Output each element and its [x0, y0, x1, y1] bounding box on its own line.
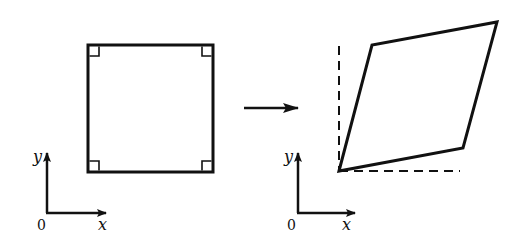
sheared-parallelogram: [339, 22, 497, 171]
right-axes: y 0 x: [283, 147, 355, 234]
right-angle-markers: [90, 47, 212, 171]
original-square: [88, 45, 213, 172]
x-axis-label: x: [342, 215, 351, 234]
y-axis-label: y: [283, 147, 294, 166]
left-axes: y 0 x: [32, 147, 107, 234]
x-axis-label: x: [98, 215, 107, 234]
shear-diagram: y 0 x y 0 x: [0, 0, 523, 244]
right-angle-marker-bottom-left: [90, 161, 100, 171]
y-axis-label: y: [32, 147, 43, 166]
right-angle-marker-top-left: [90, 47, 100, 57]
right-angle-marker-top-right: [202, 47, 212, 57]
origin-label: 0: [37, 217, 46, 233]
origin-label: 0: [287, 217, 296, 233]
right-angle-marker-bottom-right: [202, 161, 212, 171]
